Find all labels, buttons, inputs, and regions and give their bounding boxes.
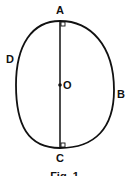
figure-caption: Fig. 1 xyxy=(0,170,129,176)
label-d: D xyxy=(6,54,14,65)
right-angle-marker-c xyxy=(61,143,65,147)
right-angle-marker-a xyxy=(61,22,65,26)
label-o: O xyxy=(63,80,72,91)
label-c: C xyxy=(56,153,64,164)
center-point-o xyxy=(58,83,62,87)
label-b: B xyxy=(117,89,125,100)
label-a: A xyxy=(56,5,64,16)
